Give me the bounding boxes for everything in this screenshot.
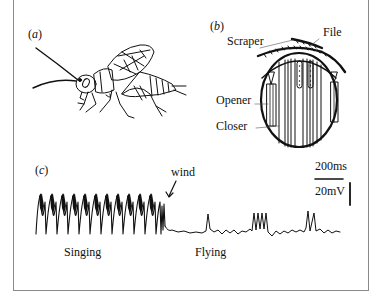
recording-trace — [36, 179, 350, 236]
cricket-illustration — [33, 45, 186, 118]
thorax-cross-section — [255, 39, 345, 147]
figure-drawings — [0, 0, 381, 298]
figure-canvas: (a) (b) (c) Scraper File Opener Closer w… — [0, 0, 381, 298]
